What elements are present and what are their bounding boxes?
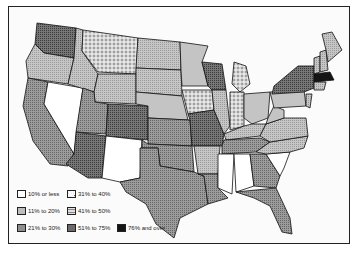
legend-label: 41% to 50% [78,208,110,214]
state-vermont [314,56,320,74]
state-north-dakota [136,38,181,70]
state-florida [236,188,292,234]
state-new-york [272,66,314,94]
state-mississippi [218,154,234,194]
legend-swatch [117,224,126,232]
legend-label: 10% or less [28,191,59,197]
legend-swatch [17,190,26,198]
state-wyoming [94,74,136,104]
state-ohio [244,92,270,124]
legend-item: 76% and over [117,224,165,232]
state-new-mexico [102,136,142,182]
legend-swatch [67,224,76,232]
state-connecticut [314,82,326,90]
legend-item: 21% to 30% [17,224,60,232]
state-arkansas [194,146,220,174]
state-indiana [230,92,244,130]
state-michigan [232,62,250,92]
legend-swatch [67,207,76,215]
legend-swatch [67,190,76,198]
legend-item: 31% to 40% [67,190,110,198]
state-kansas [148,118,192,146]
legend-swatch [17,224,26,232]
legend-label: 76% and over [128,225,165,231]
state-new-jersey [306,94,312,108]
legend-item: 10% or less [17,190,59,198]
legend-swatch [17,207,26,215]
state-south-dakota [136,68,182,96]
legend-label: 11% to 20% [28,208,60,214]
legend-item: 51% to 75% [67,224,110,232]
state-massachusetts [314,72,334,82]
legend-item: 41% to 50% [67,207,110,215]
legend-label: 21% to 30% [28,225,60,231]
legend-item: 11% to 20% [17,207,60,215]
map-legend: 10% or less 31% to 40% 11% to 20% 41% to… [17,190,177,242]
legend-label: 51% to 75% [78,225,110,231]
legend-label: 31% to 40% [78,191,110,197]
state-colorado [106,104,148,140]
